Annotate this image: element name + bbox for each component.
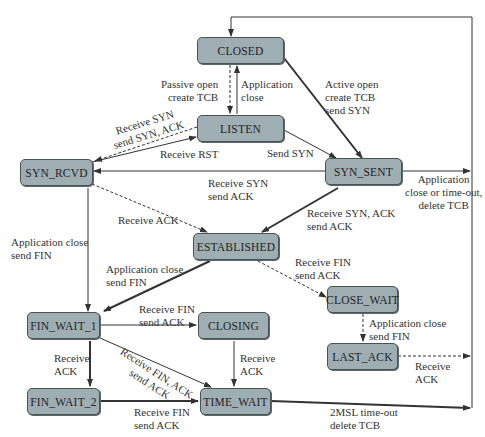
label-send-syn: Send SYN [267, 147, 314, 160]
label-last-ack-receive-ack: Receive ACK [415, 360, 450, 386]
state-fin-wait-2: FIN_WAIT_2 [27, 388, 100, 415]
state-closing: CLOSING [198, 312, 269, 339]
state-last-ack: LAST_ACK [327, 343, 398, 370]
label-syn-rcvd-app-close: Application close send FIN [11, 236, 88, 262]
state-established: ESTABLISHED [193, 233, 279, 260]
label-established-app-close: Application close send FIN [106, 263, 183, 289]
label-fin-wait-1-receive-ack: Receive ACK [54, 352, 89, 378]
label-active-open: Active open create TCB send SYN [325, 78, 378, 117]
label-app-close-listen: Application close [241, 78, 293, 104]
label-fin-wait-1-closing: Receive FIN send ACK [139, 303, 195, 329]
state-listen: LISTEN [197, 115, 284, 142]
state-syn-rcvd: SYN_RCVD [20, 159, 93, 186]
label-time-wait-timeout: 2MSL time-out delete TCB [330, 406, 398, 432]
state-closed: CLOSED [197, 37, 284, 64]
label-established-receive-fin: Receive FIN send ACK [295, 256, 351, 282]
label-closing-receive-ack: Receive ACK [240, 352, 275, 378]
state-time-wait: TIME_WAIT [200, 388, 271, 415]
label-syn-sent-syn-rcvd: Receive SYN send ACK [208, 177, 268, 203]
state-syn-sent: SYN_SENT [325, 158, 402, 185]
label-syn-rcvd-receive-ack: Receive ACK [118, 214, 179, 227]
state-fin-wait-1: FIN_WAIT_1 [27, 312, 100, 339]
label-close-wait-app-close: Application close send FIN [369, 317, 446, 343]
tcp-state-diagram: CLOSED LISTEN SYN_RCVD SYN_SENT ESTABLIS… [0, 0, 485, 437]
label-syn-sent-timeout: Application close or time-out, delete TC… [405, 173, 482, 212]
state-close-wait: CLOSE_WAIT [327, 286, 398, 313]
label-passive-open: Passive open create TCB [161, 78, 218, 104]
label-fin-wait-2-time-wait: Receive FIN send ACK [134, 406, 190, 432]
label-receive-rst: Receive RST [160, 148, 218, 161]
label-syn-sent-established: Receive SYN, ACK send ACK [307, 207, 395, 233]
